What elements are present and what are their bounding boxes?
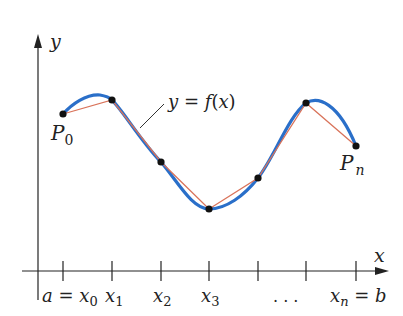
partition-points bbox=[59, 96, 359, 212]
curve-label-leader bbox=[140, 104, 164, 128]
point-p3 bbox=[205, 205, 212, 212]
x-axis-arrow-icon bbox=[375, 267, 389, 275]
tick-label-xn: xn = b bbox=[330, 285, 387, 309]
tick-label-x1: x1 bbox=[105, 285, 123, 309]
point-p0 bbox=[59, 110, 66, 117]
point-pn bbox=[352, 142, 359, 149]
tick-label-x2: x2 bbox=[153, 285, 171, 309]
diagram-canvas: y x y = f(x) P0 Pn a = x0 x1 x2 x3 . . .… bbox=[0, 0, 403, 316]
y-axis-label: y bbox=[49, 30, 61, 52]
point-label-p0: P0 bbox=[50, 121, 73, 148]
tick-label-x3: x3 bbox=[201, 285, 219, 309]
curve-f bbox=[63, 95, 356, 209]
point-p5 bbox=[302, 99, 309, 106]
point-label-pn: Pn bbox=[339, 151, 365, 178]
curve-label: y = f(x) bbox=[167, 91, 236, 112]
tick-label-ellipsis: . . . bbox=[273, 287, 298, 306]
point-p1 bbox=[108, 96, 115, 103]
y-axis-arrow-icon bbox=[34, 34, 42, 48]
x-axis-label: x bbox=[374, 244, 385, 266]
tick-label-x0: a = x0 bbox=[42, 285, 98, 309]
point-p2 bbox=[157, 158, 164, 165]
polygon-approximation bbox=[63, 100, 356, 209]
point-p4 bbox=[254, 174, 261, 181]
